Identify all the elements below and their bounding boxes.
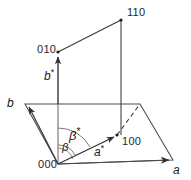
dashed-connector: [117, 104, 140, 135]
label-000: 000: [38, 159, 57, 170]
vector-a: [58, 160, 169, 164]
figure-canvas: 010 110 100 000 b a b* a* β* β: [0, 0, 191, 180]
label-axis-b-star: b*: [44, 68, 54, 82]
label-axis-b-star-mark: *: [51, 67, 55, 77]
label-axis-a-star-base: a: [94, 145, 101, 159]
label-axis-a-star-mark: *: [101, 143, 105, 153]
label-axis-a: a: [173, 164, 180, 176]
label-axis-b: b: [7, 97, 14, 109]
upper-plane-edges: [58, 20, 121, 135]
label-angle-beta: β: [62, 142, 68, 153]
label-100: 100: [122, 136, 141, 147]
label-angle-beta-star: β*: [69, 127, 80, 142]
label-010: 010: [37, 44, 56, 55]
vector-b: [29, 107, 58, 164]
label-axis-b-star-base: b: [44, 69, 51, 83]
label-axis-a-star: a*: [94, 144, 104, 158]
label-angle-beta-star-mark: *: [76, 126, 80, 137]
label-110: 110: [127, 7, 145, 18]
